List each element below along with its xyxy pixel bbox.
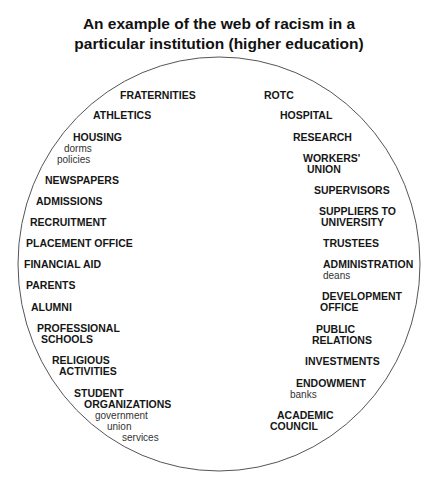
label-placement-office: PLACEMENT OFFICE xyxy=(26,238,133,249)
label-organizations: ORGANIZATIONS xyxy=(84,399,171,410)
label-student-union: union xyxy=(107,421,131,432)
label-parents: PARENTS xyxy=(26,280,75,291)
label-housing-policies: policies xyxy=(57,154,90,165)
label-investments: INVESTMENTS xyxy=(305,356,380,367)
label-newspapers: NEWSPAPERS xyxy=(45,175,119,186)
label-recruitment: RECRUITMENT xyxy=(30,217,106,228)
label-financial-aid: FINANCIAL AID xyxy=(24,259,101,270)
label-office: OFFICE xyxy=(320,302,359,313)
label-athletics: ATHLETICS xyxy=(93,110,151,121)
label-housing: HOUSING xyxy=(73,132,122,143)
label-student-government: government xyxy=(95,410,148,421)
label-admissions: ADMISSIONS xyxy=(36,196,103,207)
label-hospital: HOSPITAL xyxy=(280,110,332,121)
label-supervisors: SUPERVISORS xyxy=(314,185,390,196)
label-rotc: ROTC xyxy=(264,90,294,101)
label-student-services: services xyxy=(122,432,159,443)
label-university: UNIVERSITY xyxy=(321,217,384,228)
label-administration-deans: deans xyxy=(323,270,350,281)
label-endowment: ENDOWMENT xyxy=(296,378,366,389)
label-fraternities: FRATERNITIES xyxy=(120,90,196,101)
label-research: RESEARCH xyxy=(293,132,352,143)
label-relations: RELATIONS xyxy=(312,335,372,346)
label-administration: ADMINISTRATION xyxy=(323,259,413,270)
label-council: COUNCIL xyxy=(270,421,318,432)
label-activities: ACTIVITIES xyxy=(59,366,117,377)
label-trustees: TRUSTEES xyxy=(323,238,379,249)
institution-circle xyxy=(0,0,438,504)
label-endowment-banks: banks xyxy=(290,389,317,400)
label-schools: SCHOOLS xyxy=(41,334,93,345)
label-alumni: ALUMNI xyxy=(31,302,72,313)
label-union: UNION xyxy=(307,164,341,175)
label-housing-dorms: dorms xyxy=(64,143,92,154)
